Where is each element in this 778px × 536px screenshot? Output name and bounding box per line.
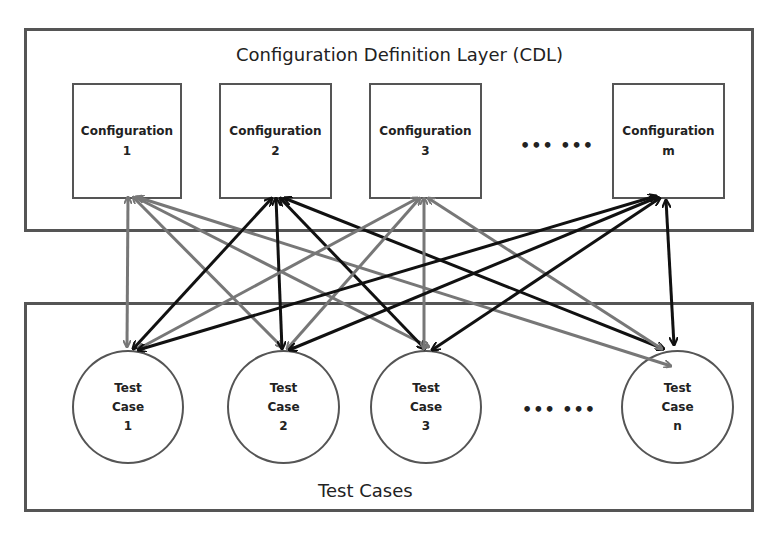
configuration-label: Configuration (379, 121, 471, 141)
configuration-index: m (662, 141, 675, 161)
test-case-circle-3[interactable]: Test Case 3 (370, 350, 482, 464)
test-case-line1: Test (412, 379, 440, 398)
test-case-line2: Case (267, 398, 299, 417)
test-case-index: 2 (279, 417, 287, 436)
test-case-circle-1[interactable]: Test Case 1 (72, 350, 184, 464)
configuration-index: 1 (123, 141, 131, 161)
configuration-label: Configuration (81, 121, 173, 141)
test-cases-ellipsis: ••• ••• (522, 400, 596, 419)
configuration-box-m[interactable]: Configuration m (612, 83, 725, 199)
test-case-index: n (673, 417, 682, 436)
test-case-circle-2[interactable]: Test Case 2 (227, 350, 340, 464)
test-case-line2: Case (112, 398, 144, 417)
test-case-index: 1 (124, 417, 132, 436)
configuration-box-3[interactable]: Configuration 3 (369, 83, 482, 199)
configuration-label: Configuration (229, 121, 321, 141)
test-cases-layer-title: Test Cases (318, 480, 413, 501)
test-case-line2: Case (661, 398, 693, 417)
cdl-layer-title: Configuration Definition Layer (CDL) (236, 44, 563, 65)
test-case-line2: Case (410, 398, 442, 417)
configuration-label: Configuration (622, 121, 714, 141)
configuration-index: 2 (271, 141, 279, 161)
test-case-line1: Test (664, 379, 692, 398)
test-case-index: 3 (422, 417, 430, 436)
configuration-box-2[interactable]: Configuration 2 (219, 83, 332, 199)
configurations-ellipsis: ••• ••• (520, 136, 594, 155)
test-case-line1: Test (270, 379, 298, 398)
configuration-box-1[interactable]: Configuration 1 (72, 83, 182, 199)
test-case-line1: Test (114, 379, 142, 398)
test-case-circle-n[interactable]: Test Case n (621, 350, 734, 464)
configuration-index: 3 (421, 141, 429, 161)
